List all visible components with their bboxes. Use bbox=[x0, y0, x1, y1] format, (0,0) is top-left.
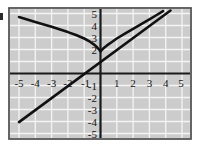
y-tick-label: 4 bbox=[92, 20, 98, 32]
page-edge-mark bbox=[0, 13, 3, 20]
x-tick-label: -4 bbox=[31, 77, 41, 89]
coordinate-plane-svg: -5 -4 -3 -2 -1 1 2 3 4 5 5 4 3 2 -1 -2 -… bbox=[0, 0, 200, 147]
x-tick-label: 1 bbox=[114, 77, 120, 89]
y-tick-label: 2 bbox=[92, 44, 98, 56]
y-tick-label: -3 bbox=[88, 104, 98, 116]
x-tick-label: -2 bbox=[63, 77, 72, 89]
x-tick-label: 2 bbox=[130, 77, 136, 89]
x-tick-label: 5 bbox=[178, 77, 184, 89]
graph-figure: -5 -4 -3 -2 -1 1 2 3 4 5 5 4 3 2 -1 -2 -… bbox=[0, 0, 200, 147]
y-tick-label: -4 bbox=[88, 116, 98, 128]
y-tick-label: 3 bbox=[92, 32, 98, 44]
x-tick-label: -3 bbox=[47, 77, 57, 89]
y-tick-label: -5 bbox=[88, 128, 98, 140]
y-tick-label: 5 bbox=[92, 8, 98, 20]
x-tick-label: 3 bbox=[147, 77, 153, 89]
x-tick-label: -5 bbox=[14, 77, 24, 89]
y-tick-label: -2 bbox=[88, 92, 97, 104]
x-tick-label: 4 bbox=[163, 77, 169, 89]
y-tick-label: -1 bbox=[88, 80, 97, 92]
